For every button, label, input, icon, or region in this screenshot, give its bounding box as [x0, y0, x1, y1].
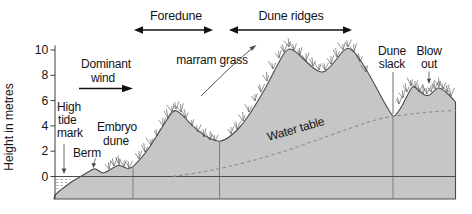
label-embryo-dune-line2: dune: [103, 134, 129, 148]
label-dune-ridges: Dune ridges: [258, 9, 323, 23]
label-high-tide-line2: tide: [58, 113, 77, 127]
dune-profile-figure: 10 8 6 4 2 0 Height in metres Foredune D…: [0, 0, 472, 214]
y-axis-title: Height in metres: [2, 83, 16, 170]
wind-direction-arrow: [79, 85, 133, 93]
dune-ridges-span-arrow: [229, 26, 352, 34]
label-foredune: Foredune: [150, 9, 202, 23]
label-high-tide-line1: High: [57, 100, 81, 114]
label-berm: Berm: [73, 146, 101, 160]
y-tick-8: 8: [41, 68, 48, 82]
label-blow-out-line1: Blow: [416, 44, 442, 58]
y-tick-2: 2: [41, 144, 48, 158]
label-dominant-wind-line1: Dominant: [81, 57, 132, 71]
label-marram-grass: marram grass: [176, 53, 248, 67]
foredune-span-arrow: [134, 26, 213, 34]
y-tick-0: 0: [41, 170, 48, 184]
dune-profile-diagram: 10 8 6 4 2 0 Height in metres Foredune D…: [0, 0, 472, 214]
y-tick-10: 10: [35, 43, 49, 57]
label-dune-slack-line2: slack: [379, 57, 407, 71]
label-embryo-dune-line1: Embryo: [97, 120, 138, 134]
high-tide-pointer: [62, 144, 67, 174]
label-blow-out-line2: out: [421, 57, 438, 71]
label-dominant-wind-line2: wind: [90, 71, 115, 85]
label-dune-slack-line1: Dune: [378, 44, 406, 58]
y-axis-tickmarks: [51, 50, 56, 177]
y-tick-4: 4: [41, 119, 48, 133]
blow-out-pointer: [427, 72, 431, 85]
y-tick-6: 6: [41, 94, 48, 108]
label-high-tide-line3: mark: [57, 126, 84, 140]
